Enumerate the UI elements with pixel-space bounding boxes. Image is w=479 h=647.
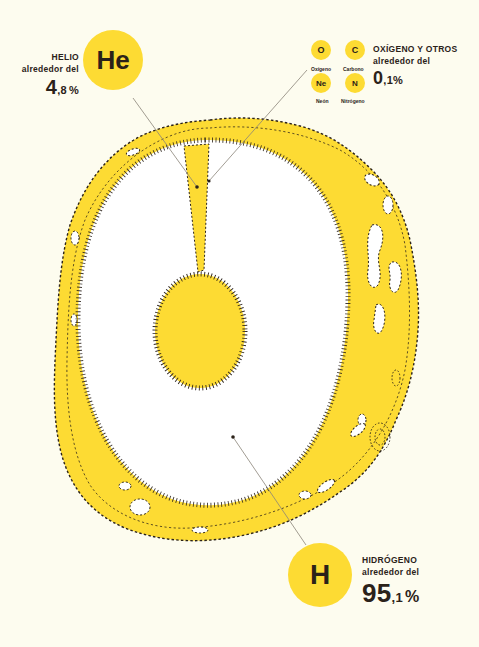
hydrogen-label: HIDRÓGENO alrededor del 95,1% bbox=[362, 556, 420, 606]
others-name: OXÍGENO Y OTROS bbox=[373, 45, 457, 54]
helium-prefix: alrededor del bbox=[22, 65, 79, 74]
helium-percentage: 4,8% bbox=[22, 77, 79, 97]
helium-label: HELIO alrededor del 4,8% bbox=[22, 53, 79, 97]
hydrogen-percentage: 95,1% bbox=[362, 580, 420, 606]
sun-cross-section-illustration bbox=[0, 0, 479, 647]
element-name-neon: Neón bbox=[316, 98, 329, 104]
element-name-nitrogen: Nitrógeno bbox=[341, 98, 365, 104]
sun-composition-diagram: He HELIO alrededor del 4,8% O C Ne N Oxí… bbox=[0, 0, 479, 647]
helium-symbol: He bbox=[96, 45, 129, 76]
hydrogen-name: HIDRÓGENO bbox=[362, 556, 420, 565]
hydrogen-prefix: alrededor del bbox=[362, 568, 420, 577]
others-percentage: 0,1% bbox=[373, 69, 457, 87]
hydrogen-symbol-circle: H bbox=[288, 543, 352, 607]
element-circle-oxygen: O bbox=[311, 40, 331, 60]
hydrogen-symbol: H bbox=[310, 559, 330, 591]
element-circle-neon: Ne bbox=[311, 73, 331, 93]
element-circle-carbon: C bbox=[345, 40, 365, 60]
others-prefix: alrededor del bbox=[373, 57, 457, 66]
helium-symbol-circle: He bbox=[83, 30, 143, 90]
others-label: OXÍGENO Y OTROS alrededor del 0,1% bbox=[373, 45, 457, 87]
element-name-oxygen: Oxígeno bbox=[311, 66, 331, 72]
element-name-carbon: Carbono bbox=[343, 66, 364, 72]
element-circle-nitrogen: N bbox=[345, 73, 365, 93]
helium-name: HELIO bbox=[22, 53, 79, 62]
